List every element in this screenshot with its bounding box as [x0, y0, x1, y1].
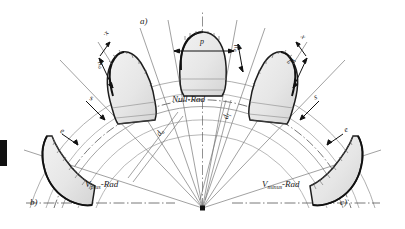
label-null-rad-text: Null- [172, 94, 191, 104]
part-label-a: a) [140, 17, 148, 26]
label-v-plus-rad: Vplus-Rad [85, 180, 118, 190]
label-v-minus-sub: minus [268, 184, 283, 190]
part-label-b: b) [30, 198, 38, 207]
center-point [200, 206, 205, 211]
label-v-minus-suffix: -Rad [282, 179, 300, 189]
tooth-upper-left [108, 50, 157, 124]
label-null-rad: Null-Rad [172, 95, 205, 104]
page-edge-mark [0, 140, 7, 166]
label-v-plus-suffix: -Rad [101, 179, 119, 189]
dim-x-left [100, 42, 110, 56]
dim-x-right [296, 42, 306, 56]
label-v-plus-sub: plus [91, 184, 101, 190]
label-null-rad-suffix: Rad [191, 94, 206, 104]
part-label-c: c) [340, 198, 347, 207]
gear-profile-figure: a) b) c) Null-Rad Vplus-Rad Vminus-Rad p… [0, 0, 405, 229]
figure-drawing [0, 0, 405, 229]
label-pitch-p: p [200, 38, 204, 46]
label-v-minus-rad: Vminus-Rad [262, 180, 300, 190]
